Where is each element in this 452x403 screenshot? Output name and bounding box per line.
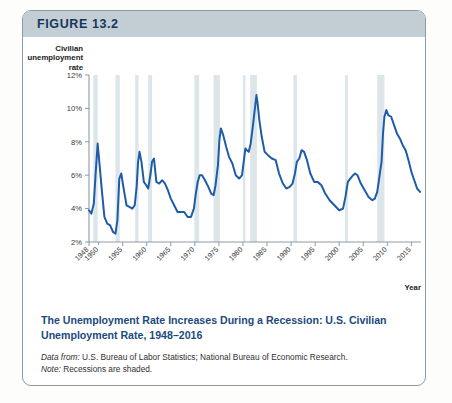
x-tick-label: 2000 [323, 245, 341, 263]
x-tick-label: 2015 [395, 245, 413, 263]
unemployment-line-chart: 2%4%6%8%10%12% 1948195019551960196519701… [23, 37, 426, 305]
x-tick-label: 2010 [371, 245, 389, 263]
y-axis-title-line: Civilian [55, 44, 83, 53]
recession-band [194, 75, 199, 242]
x-tick-label: 1970 [179, 245, 197, 263]
figure-number-label: FIGURE 13.2 [37, 17, 119, 31]
y-axis-title-line: rate [69, 63, 84, 72]
recession-band [148, 75, 152, 242]
x-axis-tick-labels: 1948195019551960196519701975198019851990… [73, 245, 413, 263]
source-note-prefix: Data from: [41, 352, 80, 362]
x-axis-title: Year [405, 283, 421, 292]
x-tick-label: 1995 [299, 245, 317, 263]
source-note: Data from: U.S. Bureau of Labor Statisti… [41, 351, 407, 363]
chart-plot-area: 2%4%6%8%10%12% 1948195019551960196519701… [23, 37, 426, 305]
y-tick-label: 8% [71, 138, 82, 147]
x-tick-label: 1955 [106, 245, 124, 263]
y-tick-label: 10% [67, 104, 82, 113]
recession-band [293, 75, 296, 242]
y-tick-label: 12% [67, 71, 82, 80]
y-tick-label: 4% [71, 204, 82, 213]
recession-note: Note: Recessions are shaded. [41, 363, 407, 375]
y-tick-label: 2% [71, 238, 82, 247]
x-axis-title: Year [405, 283, 421, 292]
figure-card: FIGURE 13.2 2%4%6%8%10%12% 1948195019551… [22, 10, 426, 386]
recession-note-text: Recessions are shaded. [63, 364, 152, 374]
y-axis-title: Civilianunemploymentrate [28, 44, 84, 72]
x-tick-label: 2005 [347, 245, 365, 263]
y-axis-title-line: unemployment [28, 53, 84, 62]
recession-band [345, 75, 348, 242]
chart-title: The Unemployment Rate Increases During a… [41, 313, 407, 342]
figure-caption-block: The Unemployment Rate Increases During a… [23, 305, 425, 375]
source-note-text: U.S. Bureau of Labor Statistics; Nationa… [82, 352, 348, 362]
x-tick-label: 1975 [203, 245, 221, 263]
x-tick-label: 1960 [130, 245, 148, 263]
figure-header: FIGURE 13.2 [23, 11, 425, 37]
recession-bands [93, 75, 384, 242]
x-tick-label: 1980 [227, 245, 245, 263]
recession-note-prefix: Note: [41, 364, 61, 374]
x-tick-label: 1990 [275, 245, 293, 263]
y-axis-tick-labels: 2%4%6%8%10%12% [67, 71, 82, 247]
x-tick-label: 1985 [251, 245, 269, 263]
x-tick-label: 1965 [155, 245, 173, 263]
y-tick-label: 6% [71, 171, 82, 180]
